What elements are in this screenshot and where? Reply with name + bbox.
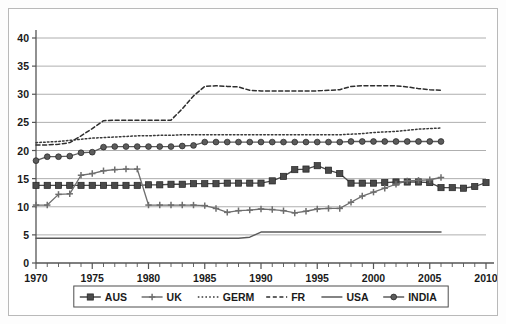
legend-label: FR <box>291 291 305 303</box>
x-tick-label: 1990 <box>249 272 273 284</box>
x-tick-label: 1970 <box>24 272 48 284</box>
legend-label: AUS <box>105 291 127 303</box>
y-tick-label: 30 <box>17 88 29 100</box>
series-aus <box>33 163 489 192</box>
y-tick-label: 0 <box>23 257 29 269</box>
x-tick-label: 1995 <box>306 272 330 284</box>
y-tick-label: 20 <box>17 145 29 157</box>
legend-label: GERM <box>223 291 255 303</box>
series-fr <box>36 86 441 145</box>
legend-marker <box>87 294 93 300</box>
legend-label: USA <box>346 291 369 303</box>
x-tick-label: 1975 <box>81 272 105 284</box>
legend-marker <box>391 294 397 300</box>
y-tick-label: 5 <box>23 229 29 241</box>
y-tick-label: 15 <box>17 173 29 185</box>
legend-label: INDIA <box>408 291 437 303</box>
x-tick-label: 1985 <box>193 272 217 284</box>
x-tick-label: 2005 <box>418 272 442 284</box>
chart-container: 0510152025303540197019751980198519901995… <box>0 0 506 324</box>
y-tick-label: 10 <box>17 201 29 213</box>
legend-label: UK <box>167 291 183 303</box>
gridlines <box>36 38 486 235</box>
x-tick-label: 2010 <box>474 272 497 284</box>
x-tick-label: 1980 <box>137 272 161 284</box>
y-tick-label: 35 <box>17 60 29 72</box>
y-tick-label: 25 <box>17 116 29 128</box>
y-tick-label: 40 <box>17 32 29 44</box>
y-axis-ticks: 0510152025303540 <box>17 32 36 269</box>
series-india <box>33 139 444 164</box>
x-axis-ticks: 197019751980198519901995200020052010 <box>24 263 497 284</box>
line-chart-plot: 0510152025303540197019751980198519901995… <box>9 9 497 315</box>
x-tick-label: 2000 <box>362 272 386 284</box>
chart-frame: 0510152025303540197019751980198519901995… <box>8 8 498 316</box>
series-uk <box>33 166 444 216</box>
